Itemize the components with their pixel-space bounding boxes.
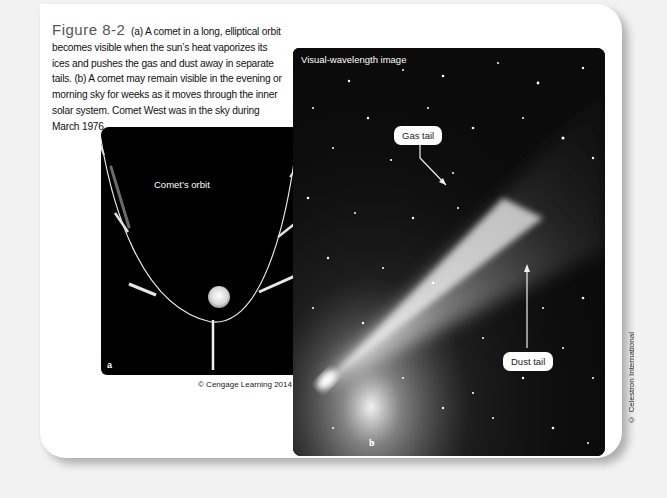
cengage-credit: © Cengage Learning 2014 (198, 380, 292, 389)
panel-a-letter: a (107, 360, 112, 370)
comet-west-photo-icon (293, 48, 605, 456)
panel-b-letter: b (369, 438, 375, 448)
image-title: Visual-wavelength image (301, 54, 406, 65)
panel-b-comet-photo: Visual-wavelength image Gas tail Dust ta… (293, 48, 605, 456)
caption-text: (a) A comet in a long, elliptical orbit … (52, 26, 282, 132)
gas-tail-callout: Gas tail (394, 126, 442, 145)
orbit-label: Comet’s orbit (154, 179, 210, 190)
figure-caption: Figure 8-2 (a) A comet in a long, ellipt… (52, 22, 284, 135)
orbit-diagram-icon (101, 127, 293, 375)
celestron-credit: © Celestron International (627, 332, 636, 424)
figure-label: Figure 8-2 (52, 21, 125, 38)
panel-a-orbit-diagram: Comet’s orbit a (101, 127, 293, 375)
dust-tail-callout: Dust tail (503, 352, 553, 371)
